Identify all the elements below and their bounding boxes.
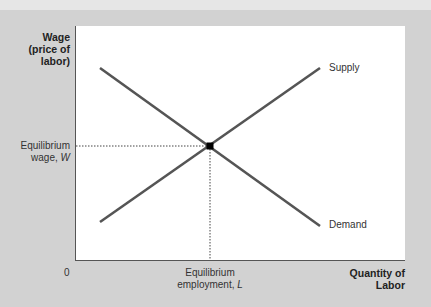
- x-axis-label-line: Quantity of: [330, 267, 405, 279]
- demand-label: Demand: [329, 219, 367, 231]
- eq-employment-label-text: employment,: [177, 279, 237, 290]
- eq-employment-var: L: [237, 279, 243, 290]
- eq-wage-label: Equilibrium wage, W: [5, 140, 70, 164]
- origin-label: 0: [64, 267, 70, 279]
- supply-label: Supply: [329, 62, 360, 74]
- y-axis-label-line: (price of: [10, 43, 70, 55]
- equilibrium-point: [207, 143, 214, 150]
- y-axis-label-line: Wage: [10, 31, 70, 43]
- eq-wage-label-line: Equilibrium: [5, 140, 70, 152]
- eq-wage-label-text: wage,: [31, 152, 60, 163]
- eq-employment-label-line: Equilibrium: [170, 267, 250, 279]
- x-axis-label: Quantity of Labor: [330, 267, 405, 291]
- eq-wage-var: W: [61, 152, 70, 163]
- y-axis-label-line: labor): [10, 55, 70, 67]
- y-axis-label: Wage (price of labor): [10, 31, 70, 67]
- x-axis-label-line: Labor: [330, 279, 405, 291]
- eq-employment-label: Equilibrium employment, L: [170, 267, 250, 291]
